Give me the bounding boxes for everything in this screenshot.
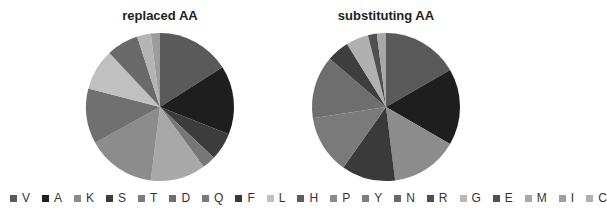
legend-swatch-icon — [267, 195, 274, 202]
legend-swatch-icon — [460, 195, 467, 202]
legend-item-p: P — [330, 191, 350, 205]
legend-swatch-icon — [362, 195, 369, 202]
legend-item-c: C — [586, 191, 607, 205]
legend-item-d: D — [169, 191, 190, 205]
legend-label: D — [181, 191, 190, 205]
legend-label: F — [247, 191, 254, 205]
legend: VAKSTDQFLHPYNRGEMIC — [10, 191, 545, 205]
legend-label: S — [118, 191, 126, 205]
legend-swatch-icon — [138, 195, 145, 202]
pie-substituting — [286, 30, 486, 186]
legend-label: Q — [214, 191, 223, 205]
legend-swatch-icon — [559, 195, 566, 202]
chart-title-substituting: substituting AA — [286, 8, 486, 23]
chart-title-replaced: replaced AA — [60, 8, 260, 23]
pie-replaced — [60, 30, 260, 186]
legend-item-f: F — [235, 191, 254, 205]
legend-item-a: A — [42, 191, 62, 205]
legend-item-l: L — [267, 191, 286, 205]
legend-swatch-icon — [202, 195, 209, 202]
legend-label: P — [342, 191, 350, 205]
legend-label: C — [598, 191, 607, 205]
legend-item-i: I — [559, 191, 574, 205]
legend-item-h: H — [297, 191, 318, 205]
legend-item-e: E — [493, 191, 513, 205]
legend-label: H — [309, 191, 318, 205]
legend-swatch-icon — [586, 195, 593, 202]
legend-swatch-icon — [74, 195, 81, 202]
legend-label: Y — [374, 191, 382, 205]
legend-item-y: Y — [362, 191, 382, 205]
legend-label: V — [22, 191, 30, 205]
legend-label: R — [439, 191, 448, 205]
legend-label: E — [505, 191, 513, 205]
legend-swatch-icon — [297, 195, 304, 202]
legend-swatch-icon — [493, 195, 500, 202]
legend-item-m: M — [525, 191, 547, 205]
legend-swatch-icon — [10, 195, 17, 202]
legend-label: K — [86, 191, 94, 205]
legend-swatch-icon — [525, 195, 532, 202]
legend-item-v: V — [10, 191, 30, 205]
legend-label: L — [279, 191, 286, 205]
legend-item-q: Q — [202, 191, 223, 205]
legend-label: I — [571, 191, 574, 205]
legend-item-k: K — [74, 191, 94, 205]
legend-item-r: R — [427, 191, 448, 205]
legend-swatch-icon — [394, 195, 401, 202]
legend-swatch-icon — [42, 195, 49, 202]
legend-item-g: G — [460, 191, 481, 205]
legend-swatch-icon — [106, 195, 113, 202]
legend-swatch-icon — [169, 195, 176, 202]
legend-label: A — [54, 191, 62, 205]
legend-swatch-icon — [235, 195, 242, 202]
legend-label: M — [537, 191, 547, 205]
legend-label: T — [150, 191, 157, 205]
legend-item-n: N — [394, 191, 415, 205]
legend-item-s: S — [106, 191, 126, 205]
legend-item-t: T — [138, 191, 157, 205]
legend-label: N — [406, 191, 415, 205]
legend-swatch-icon — [427, 195, 434, 202]
legend-label: G — [472, 191, 481, 205]
legend-swatch-icon — [330, 195, 337, 202]
